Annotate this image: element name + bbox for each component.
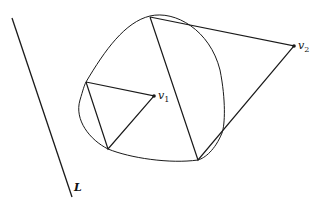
cone-v2: [150, 17, 294, 160]
cone-v1: [86, 82, 154, 149]
convex-region: [79, 15, 225, 161]
point-v2: [292, 44, 296, 48]
label-L: L: [74, 182, 82, 193]
line-L: [12, 18, 72, 197]
label-v2: v2: [298, 40, 309, 54]
point-v1: [152, 94, 156, 98]
diagram-canvas: v1 v2 L: [0, 0, 317, 207]
label-v1: v1: [158, 90, 169, 104]
